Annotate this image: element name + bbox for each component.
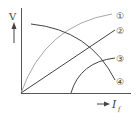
curve-4-label: ④	[116, 77, 124, 87]
curve-3-label: ③	[116, 54, 124, 64]
characteristic-curves-diagram: V ① ② ③ ④ I f	[0, 0, 138, 113]
y-arrowhead-icon	[12, 22, 17, 29]
curve-1	[21, 14, 112, 93]
x-arrowhead-icon	[104, 102, 110, 107]
curve-1-label: ①	[116, 11, 124, 21]
curve-3	[71, 58, 115, 93]
y-axis-label: V	[8, 11, 17, 22]
curve-2-label: ②	[116, 26, 124, 36]
x-axis-label: I	[111, 98, 117, 111]
x-axis-subscript: f	[117, 105, 122, 113]
